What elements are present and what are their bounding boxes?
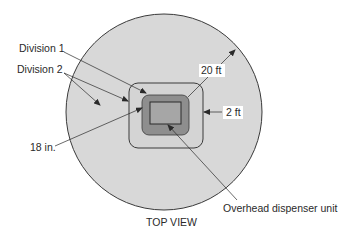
- hazard-zone-diagram: Division 1 Division 2 18 in. 20 ft 2 ft …: [0, 0, 346, 238]
- dim-2ft-label: 2 ft: [226, 106, 241, 118]
- dim-20ft-label: 20 ft: [201, 64, 222, 76]
- division2-label: Division 2: [17, 63, 63, 75]
- dispenser-label: Overhead dispenser unit: [223, 202, 337, 214]
- overhead-dispenser-unit: [150, 102, 181, 124]
- top-view-caption: TOP VIEW: [146, 216, 197, 228]
- division1-label: Division 1: [19, 42, 65, 54]
- dim-18in-label: 18 in.: [30, 141, 56, 153]
